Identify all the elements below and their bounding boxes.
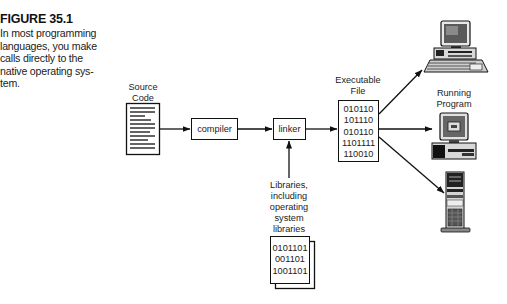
source-code-document-icon: [127, 104, 160, 155]
linker-box: linker: [273, 118, 306, 140]
running-program-label: Running Program: [428, 88, 480, 110]
tower-server-icon: [441, 172, 470, 232]
source-code-label: Source Code: [120, 82, 166, 104]
desktop-computer-icon: [424, 21, 488, 72]
libraries-front-page: 0101101 001101 1001101: [270, 236, 310, 284]
libraries-label: Libraries, including operating system li…: [262, 180, 316, 235]
diagram-graphics: [0, 0, 507, 304]
compiler-box: compiler: [191, 118, 238, 140]
executable-file-label: Executable File: [328, 75, 388, 97]
executable-file-box: 010110 101110 010110 1101111 110010: [338, 100, 379, 162]
running-program-computer-icon: [432, 113, 476, 159]
